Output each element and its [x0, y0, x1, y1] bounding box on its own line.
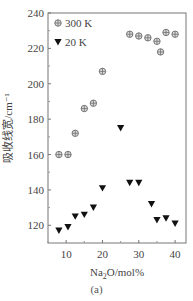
- y-tick-label: 120: [28, 219, 45, 231]
- y-tick-label: 200: [28, 78, 45, 90]
- x-tick-label: 20: [97, 248, 109, 260]
- y-tick-label: 180: [28, 113, 45, 125]
- data-point-20k: [72, 213, 79, 219]
- y-axis-label: 吸收线宽/cm⁻¹: [1, 93, 14, 163]
- data-point-20k: [148, 201, 155, 207]
- data-point-20k: [55, 228, 62, 234]
- y-tick-label: 220: [28, 42, 45, 54]
- data-point-20k: [153, 217, 160, 223]
- legend-label-300k: 300 K: [65, 17, 92, 29]
- data-point-20k: [172, 221, 179, 227]
- data-point-20k: [90, 205, 97, 211]
- data-point-20k: [126, 180, 133, 186]
- figure-caption: (a): [0, 283, 193, 295]
- legend-label-20k: 20 K: [65, 36, 87, 48]
- y-tick-label: 240: [28, 7, 45, 19]
- legend-marker-20k: [54, 39, 61, 45]
- x-tick-label: 10: [61, 248, 73, 260]
- data-point-20k: [117, 125, 124, 131]
- x-axis-label: Na2O/mol%: [90, 266, 144, 280]
- data-point-20k: [81, 212, 88, 218]
- data-point-20k: [135, 180, 142, 186]
- data-point-20k: [162, 215, 169, 221]
- y-tick-label: 140: [28, 184, 45, 196]
- scatter-chart: 12014016018020022024010203040Na2O/mol%吸收…: [0, 0, 193, 280]
- data-point-20k: [64, 224, 71, 230]
- x-tick-label: 40: [170, 248, 182, 260]
- x-tick-label: 30: [133, 248, 145, 260]
- data-point-20k: [99, 185, 106, 191]
- y-tick-label: 160: [28, 149, 45, 161]
